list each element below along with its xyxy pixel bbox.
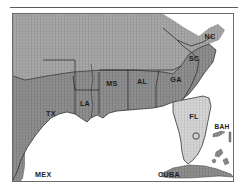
figure-page: TX LA MS AL GA SC NC FL BAH MEX CUBA	[0, 0, 246, 193]
map-label-sc: SC	[189, 54, 200, 63]
map-label-fl: FL	[189, 112, 199, 121]
map-label-al: AL	[137, 77, 147, 86]
map-label-bah: BAH	[215, 123, 230, 130]
map-label-cuba: CUBA	[158, 170, 180, 179]
map-frame: TX LA MS AL GA SC NC FL BAH MEX CUBA	[12, 13, 234, 182]
top-horizontal-rule	[10, 7, 238, 8]
map-label-mex: MEX	[35, 170, 51, 179]
map-label-ms: MS	[106, 79, 117, 88]
map-label-la: LA	[80, 99, 90, 108]
map-label-ga: GA	[170, 75, 181, 84]
southeast-us-map: TX LA MS AL GA SC NC FL BAH MEX CUBA	[13, 14, 233, 181]
map-label-tx: TX	[46, 109, 56, 118]
map-label-nc: NC	[205, 32, 216, 41]
